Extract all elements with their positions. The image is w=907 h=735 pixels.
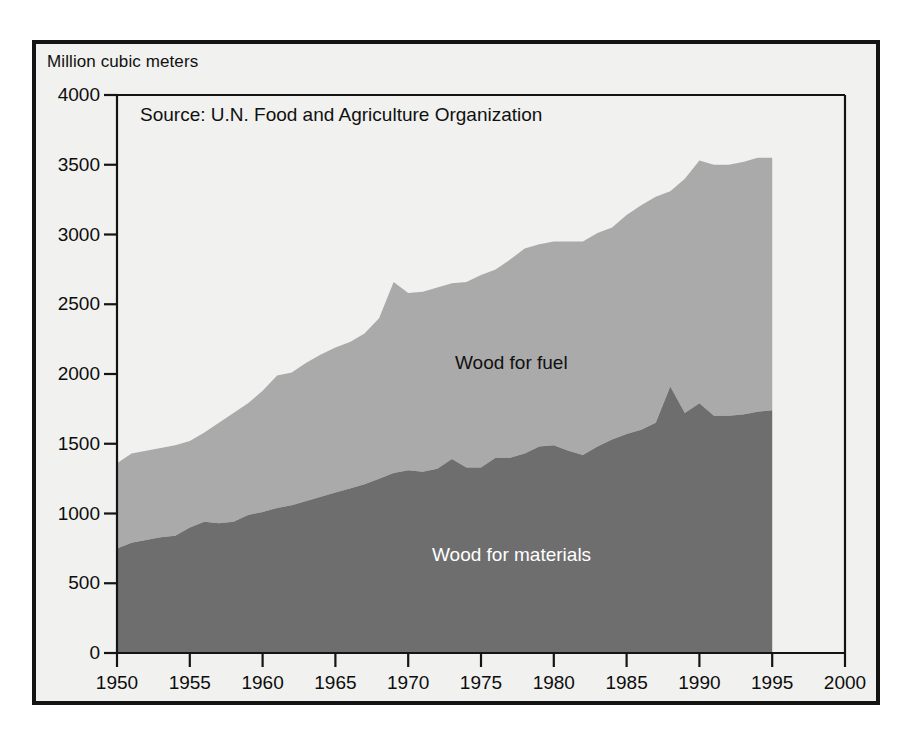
y-tick-label-3000: 3000 <box>38 224 100 246</box>
x-tick-label-1980: 1980 <box>519 672 589 694</box>
x-axis-ticks <box>117 653 845 667</box>
y-tick-label-1500: 1500 <box>38 433 100 455</box>
y-tick-label-0: 0 <box>38 642 100 664</box>
x-tick-label-1990: 1990 <box>664 672 734 694</box>
x-tick-label-1950: 1950 <box>82 672 152 694</box>
series-label-wood-for-materials: Wood for materials <box>432 544 591 566</box>
y-tick-label-4000: 4000 <box>38 84 100 106</box>
x-tick-label-1965: 1965 <box>300 672 370 694</box>
source-note: Source: U.N. Food and Agriculture Organi… <box>140 104 542 126</box>
x-tick-label-1970: 1970 <box>373 672 443 694</box>
x-tick-label-1985: 1985 <box>592 672 662 694</box>
series-label-wood-for-fuel: Wood for fuel <box>455 352 568 374</box>
x-tick-label-1955: 1955 <box>155 672 225 694</box>
y-tick-label-2500: 2500 <box>38 293 100 315</box>
y-tick-label-500: 500 <box>38 572 100 594</box>
y-axis-ticks <box>104 95 117 653</box>
plot-area: Million cubic meters Source: U.N. Food a… <box>0 0 907 735</box>
y-tick-label-2000: 2000 <box>38 363 100 385</box>
x-tick-label-2000: 2000 <box>810 672 880 694</box>
y-axis-units-label: Million cubic meters <box>47 52 198 72</box>
x-tick-label-1960: 1960 <box>228 672 298 694</box>
x-tick-label-1975: 1975 <box>446 672 516 694</box>
x-tick-label-1995: 1995 <box>737 672 807 694</box>
y-tick-label-1000: 1000 <box>38 503 100 525</box>
figure-panel: Million cubic meters Source: U.N. Food a… <box>0 0 907 735</box>
y-tick-label-3500: 3500 <box>38 154 100 176</box>
